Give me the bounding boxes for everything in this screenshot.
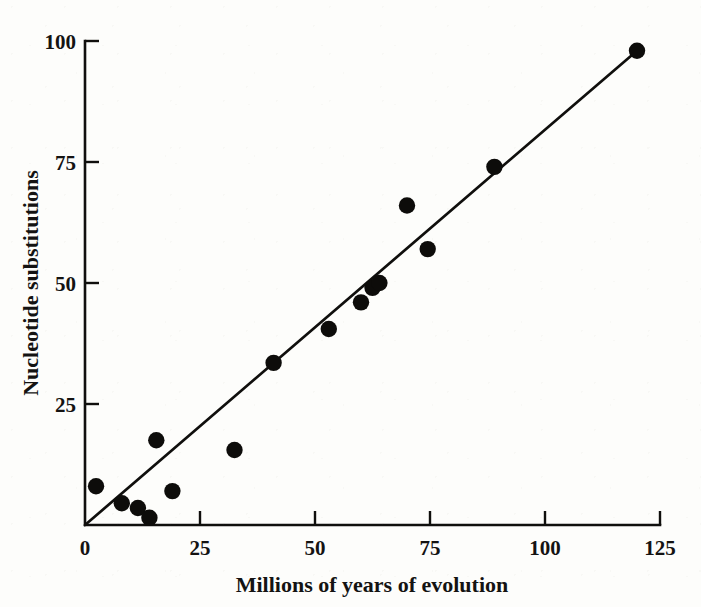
x-axis-tick-labels: 0 25 50 75 100 125	[80, 536, 676, 560]
x-tick-label-125: 125	[644, 536, 676, 560]
data-point	[114, 495, 130, 511]
x-tick-label-0: 0	[80, 536, 91, 560]
data-point	[141, 510, 157, 526]
y-tick-label-50: 50	[55, 272, 76, 296]
trend-line	[85, 51, 637, 525]
y-axis-ticks	[85, 41, 99, 404]
x-axis-title: Millions of years of evolution	[236, 572, 509, 597]
x-tick-label-50: 50	[305, 536, 326, 560]
data-point	[371, 275, 387, 291]
scatter-plot-figure: 100 75 50 25 0 25 50 75 100 125 Millions…	[0, 0, 701, 607]
plot-canvas: 100 75 50 25 0 25 50 75 100 125 Millions…	[0, 0, 701, 607]
data-point	[486, 159, 502, 175]
y-axis-title: Nucleotide substitutions	[18, 170, 43, 396]
data-point	[353, 294, 369, 310]
data-point	[88, 478, 104, 494]
data-point	[321, 321, 337, 337]
data-point	[148, 432, 164, 448]
y-tick-label-25: 25	[55, 393, 76, 417]
y-axis-tick-labels: 100 75 50 25	[45, 30, 77, 417]
x-tick-label-100: 100	[529, 536, 561, 560]
data-point	[399, 197, 415, 213]
x-tick-label-25: 25	[190, 536, 211, 560]
x-axis-ticks	[200, 511, 660, 525]
x-tick-label-75: 75	[420, 536, 441, 560]
y-tick-label-75: 75	[55, 151, 76, 175]
y-tick-label-100: 100	[45, 30, 77, 54]
data-point	[629, 42, 645, 58]
data-point	[420, 241, 436, 257]
data-point	[226, 442, 242, 458]
data-point	[164, 483, 180, 499]
data-point	[265, 355, 281, 371]
